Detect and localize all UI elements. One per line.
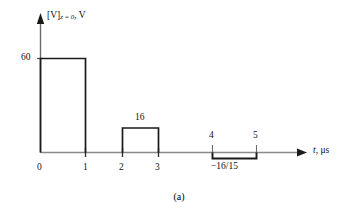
x-tick-label-4: 4 xyxy=(209,131,214,141)
y-axis-arrowhead xyxy=(37,13,44,24)
x-axis xyxy=(41,149,308,157)
x-axis-arrowhead xyxy=(297,149,307,157)
x-tick-label-5: 5 xyxy=(253,131,258,141)
pulse-2-value-label: 16 xyxy=(135,113,145,123)
figure-caption: (a) xyxy=(0,191,358,202)
pulse-1-60v xyxy=(41,59,86,153)
y-tick-label-60: 60 xyxy=(21,53,31,63)
figure-container: [V]z = 0, V 60 16 −16/15 0 1 2 3 4 5 t, … xyxy=(0,0,358,214)
y-axis-label-subscript: z = 0 xyxy=(60,13,74,20)
x-tick-label-0: 0 xyxy=(37,163,42,173)
pulse-3-neg xyxy=(213,153,257,159)
pulse-2-16v xyxy=(123,128,159,153)
x-tick-label-2: 2 xyxy=(119,163,124,173)
x-tick-label-3: 3 xyxy=(155,163,160,173)
y-axis-label: [V]z = 0, V xyxy=(47,11,86,21)
x-axis-label: t, μs xyxy=(313,146,329,156)
voltage-time-plot xyxy=(0,0,358,214)
x-tick-label-1: 1 xyxy=(83,163,88,173)
y-axis-label-main: [V] xyxy=(47,10,60,20)
pulse-3-value-label: −16/15 xyxy=(211,162,238,172)
y-axis-label-unit: , V xyxy=(74,10,85,20)
x-axis-label-unit: , μs xyxy=(316,145,330,155)
